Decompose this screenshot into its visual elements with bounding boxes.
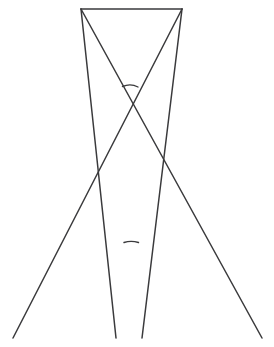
figure-container xyxy=(0,0,274,347)
geometry-figure xyxy=(0,0,274,347)
figure-background xyxy=(0,0,274,347)
